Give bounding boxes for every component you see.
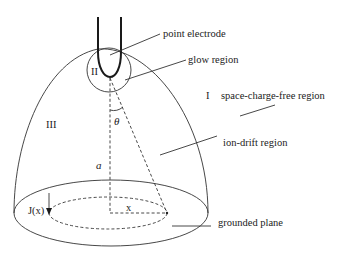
radius-x-symbol: x (126, 202, 132, 213)
theta-ray-dashed-line (110, 78, 167, 213)
point-electrode-shape (98, 17, 121, 77)
point-electrode-leader (110, 34, 160, 55)
glow-region-leader (125, 60, 186, 80)
glow-region-label: glow region (188, 54, 239, 65)
region-III-numeral: III (46, 119, 57, 130)
theta-angle-arc (110, 107, 123, 111)
ion-drift-region-boundary (14, 49, 208, 213)
space-charge-free-leader (240, 105, 275, 116)
space-charge-free-label: space-charge-free region (221, 90, 326, 101)
grounded-plane-label: grounded plane (218, 217, 283, 228)
point-plane-corona-diagram: point electrode glow region I space-char… (0, 0, 345, 255)
distance-a-symbol: a (96, 159, 102, 171)
point-electrode-label: point electrode (163, 28, 226, 39)
current-density-arrow-head (46, 208, 52, 215)
region-II-numeral: II (91, 66, 98, 77)
ion-drift-label: ion-drift region (223, 137, 288, 148)
region-I-numeral: I (206, 90, 210, 101)
plane-point-marker (166, 212, 168, 214)
ion-drift-leader (160, 136, 217, 155)
theta-symbol: θ (114, 115, 120, 127)
current-density-label: J(x) (28, 205, 45, 217)
